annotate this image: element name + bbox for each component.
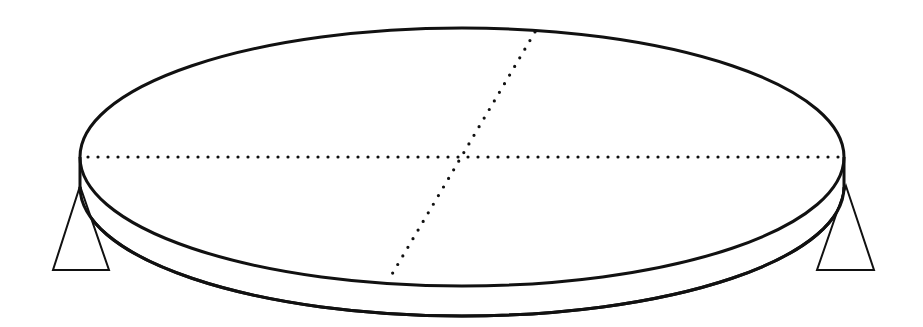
plate-bottom-edge — [80, 157, 844, 316]
oblique-diameter-dotted — [388, 32, 535, 281]
plate-bottom-edge-front — [80, 187, 844, 316]
plate-on-supports-diagram — [0, 0, 923, 327]
